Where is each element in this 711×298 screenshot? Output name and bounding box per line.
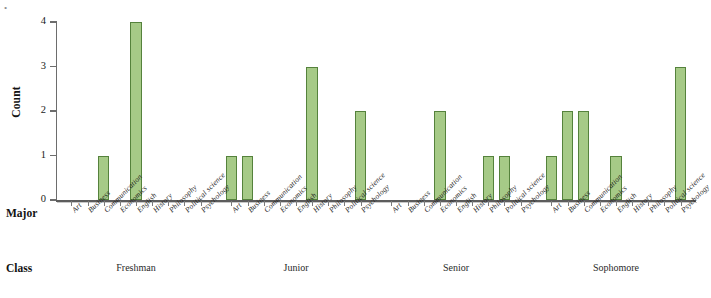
bar [675, 67, 687, 201]
x-axis-class-label: Freshman [76, 262, 196, 273]
bar [306, 67, 318, 201]
corner-mark-icon: • [4, 6, 9, 11]
class-row-title: Class [6, 262, 32, 274]
x-axis-class-label: Sophomore [556, 262, 676, 273]
bar [578, 111, 590, 200]
bar [226, 156, 238, 201]
y-axis-tick-label: 4 [22, 15, 46, 26]
y-axis-tick-label: 3 [22, 60, 46, 71]
x-axis-class-label: Senior [396, 262, 516, 273]
x-axis-class-label: Junior [236, 262, 356, 273]
y-axis-tick-label: 2 [22, 104, 46, 115]
bar [546, 156, 558, 201]
bar [242, 156, 254, 201]
y-axis-title: Count [10, 67, 22, 137]
y-axis-tick-label: 1 [22, 149, 46, 160]
bar [562, 111, 574, 200]
major-row-title: Major [6, 207, 37, 219]
y-axis-tick-label: 0 [22, 193, 46, 204]
